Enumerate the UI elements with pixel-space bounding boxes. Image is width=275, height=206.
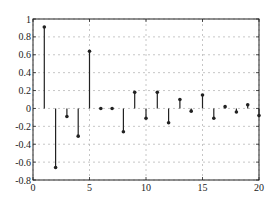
y-tick-label: 0.6 <box>19 49 32 60</box>
stem-marker <box>88 49 92 53</box>
stem-marker <box>43 25 47 29</box>
stem-marker <box>54 166 58 170</box>
grid-lines <box>33 19 259 180</box>
y-tick-label: -0.4 <box>15 139 31 150</box>
stem-marker <box>156 91 160 95</box>
stem-marker <box>201 93 205 97</box>
y-tick-labels: -0.8-0.6-0.4-0.200.20.40.60.81 <box>15 14 31 186</box>
stem-marker <box>99 107 103 111</box>
y-tick-label: 0.8 <box>19 31 32 42</box>
stem-plot: 05101520 -0.8-0.6-0.4-0.200.20.40.60.81 <box>0 0 275 206</box>
y-tick-label: 0.4 <box>19 67 32 78</box>
y-tick-label: 0 <box>26 103 31 114</box>
stem-marker <box>223 105 227 109</box>
stem-marker <box>189 109 193 113</box>
plot-svg: 05101520 -0.8-0.6-0.4-0.200.20.40.60.81 <box>0 0 275 206</box>
stem-marker <box>76 134 80 138</box>
y-tick-label: 0.2 <box>19 85 32 96</box>
stem-marker <box>167 121 171 125</box>
stem-marker <box>212 116 216 120</box>
y-tick-label: -0.8 <box>15 175 31 186</box>
stem-marker <box>178 98 182 102</box>
y-tick-label: -0.2 <box>15 121 31 132</box>
stem-marker <box>144 116 148 120</box>
y-tick-label: 1 <box>26 14 31 25</box>
x-tick-labels: 05101520 <box>31 182 265 193</box>
stem-marker <box>110 107 114 111</box>
x-tick-label: 5 <box>87 182 92 193</box>
stem-marker <box>246 103 250 107</box>
data-stems <box>43 25 261 169</box>
stem-marker <box>65 115 69 119</box>
stem-marker <box>235 110 239 114</box>
x-tick-label: 10 <box>141 182 151 193</box>
x-tick-label: 20 <box>254 182 264 193</box>
x-tick-label: 15 <box>198 182 208 193</box>
stem-marker <box>133 91 137 95</box>
x-tick-label: 0 <box>31 182 36 193</box>
stem-marker <box>122 130 126 134</box>
y-tick-label: -0.6 <box>15 157 31 168</box>
